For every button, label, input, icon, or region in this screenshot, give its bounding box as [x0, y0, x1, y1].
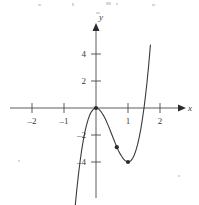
x-axis-label: x [187, 103, 192, 113]
inflection-point [115, 145, 119, 149]
x-tick-label-2: 2 [158, 116, 163, 126]
y-tick-label--4: –4 [76, 157, 87, 167]
graph-figure: –2 –1 1 2 4 2 –2 –4 x y [0, 0, 199, 205]
minimum-point [126, 160, 130, 164]
origin-point [94, 106, 98, 110]
x-tick-label-1: 1 [126, 116, 131, 126]
scan-artifacts [18, 2, 180, 177]
y-axis-label: y [98, 12, 103, 22]
x-tick-label--2: –2 [27, 116, 37, 126]
y-tick-label-2: 2 [82, 76, 87, 86]
y-axis-arrow [93, 23, 100, 31]
y-tick-label-4: 4 [82, 49, 87, 59]
x-tick-label--1: –1 [59, 116, 69, 126]
coordinate-plane-svg: –2 –1 1 2 4 2 –2 –4 x y [0, 0, 199, 205]
x-axis-arrow [178, 105, 186, 112]
cubic-curve [74, 45, 151, 205]
